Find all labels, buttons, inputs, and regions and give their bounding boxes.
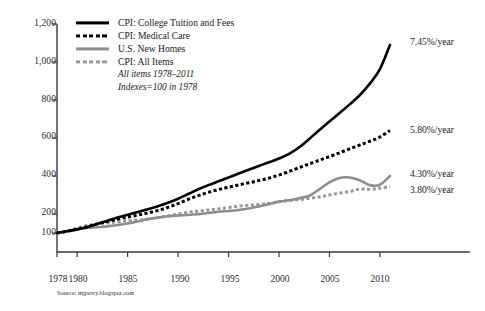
y-axis-tick-1000: 1,000 — [12, 56, 56, 66]
x-axis-tick-1985: 1985 — [108, 274, 148, 284]
legend-item-college-tuition: CPI: College Tuition and Fees — [76, 16, 306, 29]
y-axis-tick-400: 400 — [12, 169, 56, 179]
legend-swatch-solid-black-icon — [76, 16, 109, 29]
chart-container: 1,200 1,000 800 600 400 200 100 1978 198… — [0, 0, 485, 311]
y-axis-tick-800: 800 — [12, 94, 56, 104]
x-axis-tick-1995: 1995 — [210, 274, 250, 284]
legend-item-all-items: CPI: All Items — [76, 55, 306, 68]
y-axis-tick-200: 200 — [12, 207, 56, 217]
y-axis-tick-100: 100 — [12, 227, 56, 237]
legend-note-period: All items 1978–2011 — [76, 68, 306, 81]
legend-label-college-tuition: CPI: College Tuition and Fees — [118, 16, 234, 29]
annotation-tuition-rate: 7.45%/year — [410, 36, 454, 47]
x-axis-tick-1980: 1980 — [58, 274, 98, 284]
series-line-cpi-medical-care — [57, 130, 390, 233]
legend-swatch-solid-gray-icon — [76, 42, 109, 55]
x-axis-tick-2005: 2005 — [310, 274, 350, 284]
chart-legend: CPI: College Tuition and Fees CPI: Medic… — [76, 16, 306, 94]
annotation-allitems-rate: 3.80%/year — [410, 184, 454, 195]
legend-swatch-dashed-black-icon — [76, 29, 109, 42]
annotation-medical-rate: 5.80%/year — [410, 124, 454, 135]
annotation-homes-rate: 4.30%/year — [410, 168, 454, 179]
x-axis-tick-2000: 2000 — [260, 274, 300, 284]
legend-label-all-items: CPI: All Items — [118, 55, 173, 68]
legend-note-index-base: Indexes=100 in 1978 — [76, 81, 306, 94]
legend-item-medical-care: CPI: Medical Care — [76, 29, 306, 42]
x-axis-tick-1990: 1990 — [160, 274, 200, 284]
x-axis-tick-2010: 2010 — [360, 274, 400, 284]
source-note: Source: mjperry.blogspot.com — [57, 289, 134, 296]
legend-label-medical-care: CPI: Medical Care — [118, 29, 190, 42]
legend-swatch-dashed-gray-icon — [76, 55, 109, 68]
legend-label-new-homes: U.S. New Homes — [118, 42, 185, 55]
legend-item-new-homes: U.S. New Homes — [76, 42, 306, 55]
y-axis-tick-600: 600 — [12, 131, 56, 141]
y-axis-tick-1200: 1,200 — [12, 18, 56, 28]
